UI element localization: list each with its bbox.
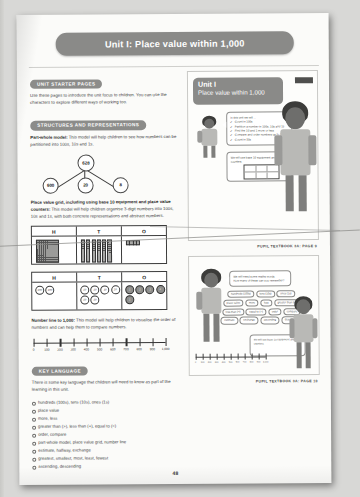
pvg1-cell-hundreds	[32, 237, 76, 264]
key-word-pill: ascending	[260, 317, 279, 324]
counter-100: 100	[45, 286, 54, 295]
counter-10: 10	[101, 285, 110, 294]
number-line-tick-label: 900	[150, 347, 155, 351]
caption-textbook-top: PUPIL TEXTBOOK 3A: PAGE 9	[188, 244, 317, 249]
counter-10: 10	[90, 285, 99, 294]
text-number-line: Number line to 1,000: This model will he…	[31, 317, 179, 332]
mini-number-line-tick	[231, 354, 232, 360]
key-language-list: hundreds (100s), tens (10s), ones (1s)pl…	[32, 399, 180, 470]
mini-number-line-tick-label: 800	[250, 360, 254, 362]
number-line-tick	[139, 339, 140, 347]
part-whole-whole: 628	[77, 154, 94, 171]
pvg2-header-t: T	[76, 273, 121, 282]
text-unit-starter-body: Use these pages to introduce the unit fo…	[30, 92, 178, 107]
key-word-pill: exchange	[240, 317, 259, 324]
counter-1: 1	[135, 285, 144, 294]
textbook-page-preview-bottom: We will need some maths words. How many …	[188, 255, 320, 376]
heading-unit-starter-pages: UNIT STARTER PAGES	[30, 79, 103, 89]
number-line-tick-label: 700	[123, 347, 128, 351]
pvg2-cell-tens: 10 10 10 10 10 10	[76, 282, 121, 309]
mini-number-line-tick	[266, 353, 267, 359]
speech-bubble-maths-words: We will need some maths words. How many …	[229, 270, 291, 286]
text-part-whole: Part-whole model: This model will help c…	[30, 134, 178, 149]
pvg1-header-t: T	[76, 227, 121, 236]
counters-ones: 1 1 1 1 1	[125, 285, 165, 304]
header-divider	[29, 65, 319, 68]
unit-banner: Unit I: Place value within 1,000	[56, 31, 294, 55]
character-figure-right	[289, 296, 317, 368]
number-line-tick	[100, 339, 101, 347]
number-line-tick	[34, 339, 35, 347]
text-place-value-grid: Place value grid, including using base 1…	[31, 199, 179, 221]
text-key-language-intro: There is some key language that children…	[32, 379, 180, 394]
mini-number-line-tick	[259, 353, 260, 359]
mini-number-line-tick	[217, 354, 218, 360]
mini-number-line-tick	[196, 354, 197, 360]
mini-number-line-tick	[252, 354, 253, 360]
key-word-pill: place value	[223, 299, 244, 306]
counter-1: 1	[125, 295, 134, 304]
heading-structures-representations: STRUCTURES AND REPRESENTATIONS	[30, 120, 146, 130]
number-line-tick	[86, 339, 87, 347]
base-ten-flat-icon	[36, 240, 59, 263]
key-word-pill: order	[268, 308, 282, 315]
mini-number-line-tick-label: 600	[236, 360, 240, 362]
number-line-tick-label: 100	[44, 348, 49, 352]
key-language-item: place value	[32, 407, 180, 414]
mini-number-line-tick-label: 700	[243, 360, 247, 362]
number-line-tick-label: 0	[33, 348, 35, 352]
number-line-tick	[113, 339, 114, 347]
mini-number-line-tick-label: 300	[215, 360, 219, 362]
counter-10: 10	[80, 296, 89, 305]
key-language-item: more, less	[32, 415, 180, 422]
mini-number-line-tick-label: 1,000	[263, 360, 268, 362]
number-line-tick-label: 500	[97, 347, 102, 351]
scanned-page: Unit I: Place value within 1,000 UNIT ST…	[17, 13, 332, 485]
pvg2-cell-ones: 1 1 1 1 1	[121, 282, 166, 309]
number-line-diagram: 01002003004005006007008009001,000	[32, 337, 168, 354]
key-word-pill: tens (10s)	[256, 290, 275, 297]
textbook-corner-marker	[295, 77, 313, 83]
counter-10: 10	[111, 285, 120, 294]
key-language-item: hundreds (100s), tens (10s), ones (1s)	[32, 399, 180, 406]
pvg1-cell-tens	[76, 237, 121, 264]
mini-number-line-tick-label: 400	[222, 360, 226, 362]
text-place-value-grid-body: This model will help children organise 3…	[31, 206, 174, 219]
number-line-tick	[60, 339, 61, 347]
character-figure-large	[274, 101, 317, 211]
unit-banner-title: Unit I: Place value within 1,000	[105, 38, 245, 49]
page-number: 48	[19, 469, 331, 477]
mini-number-line-tick	[203, 354, 204, 360]
mini-number-line-tick-label: 200	[208, 360, 212, 362]
mini-number-line-tick	[245, 354, 246, 360]
bubble-maths-line2: How many of these can you remember?	[233, 279, 287, 284]
counter-1: 1	[156, 285, 165, 294]
key-language-item: order, compare	[32, 431, 180, 438]
counter-100: 100	[35, 286, 44, 295]
number-line-tick	[47, 339, 48, 347]
left-column: UNIT STARTER PAGES Use these pages to in…	[30, 71, 180, 472]
base-ten-ones-icon	[126, 240, 138, 244]
mini-number-line-tick-label: 900	[257, 360, 261, 362]
mini-number-line-tick-label: 100	[201, 360, 205, 362]
number-line-tick	[166, 338, 167, 346]
speech-bubble-tail	[222, 122, 226, 128]
number-line-tick-label: 300	[71, 348, 76, 352]
textbook-unit-subtitle: Place value within 1,000	[198, 89, 278, 97]
counter-1: 1	[125, 285, 134, 294]
pvg2-cell-hundreds: 100 100	[32, 283, 76, 310]
mini-number-line: 01002003004005006007008009001,000	[196, 352, 266, 366]
number-line-tick	[73, 339, 74, 347]
mini-number-line-tick	[224, 354, 225, 360]
mini-number-line-tick	[238, 354, 239, 360]
pvg1-cell-ones	[121, 236, 166, 263]
key-word-pill: less than (<)	[222, 308, 244, 315]
base-ten-rods-icon	[81, 240, 112, 263]
number-line-tick	[152, 339, 153, 347]
key-word-pill: more	[245, 299, 258, 306]
textbook-unit-banner: Unit I Place value within 1,000	[193, 77, 283, 105]
part-whole-diagram: 628 600 20 8	[30, 154, 178, 193]
place-value-grid-base-ten: H T O	[31, 225, 167, 265]
pvg1-header-h: H	[32, 227, 76, 236]
number-line-tick-label: 600	[110, 347, 115, 351]
